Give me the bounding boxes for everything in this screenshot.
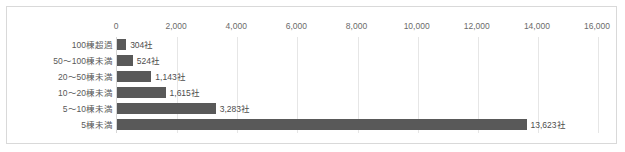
bar-row: 5〜10棟未満3,283社 bbox=[117, 101, 598, 117]
category-label: 5〜10棟未満 bbox=[63, 101, 113, 117]
category-label: 5棟未満 bbox=[81, 117, 113, 133]
bar-value-label: 304社 bbox=[130, 37, 153, 53]
x-tick-label: 4,000 bbox=[226, 19, 247, 33]
bar-value-label: 524社 bbox=[137, 53, 160, 69]
category-label: 100棟超過 bbox=[72, 37, 113, 53]
bar bbox=[117, 39, 126, 50]
bar-value-label: 1,615社 bbox=[170, 85, 200, 101]
gridline bbox=[598, 37, 599, 133]
category-label: 10〜20棟未満 bbox=[58, 85, 113, 101]
chart-figure: 02,0004,0006,0008,00010,00012,00014,0001… bbox=[6, 6, 617, 144]
x-tick-label: 8,000 bbox=[346, 19, 367, 33]
bar bbox=[117, 55, 133, 66]
x-tick-label: 6,000 bbox=[286, 19, 307, 33]
x-tick-label: 2,000 bbox=[165, 19, 186, 33]
bar-row: 50〜100棟未満524社 bbox=[117, 53, 598, 69]
bar bbox=[117, 119, 527, 130]
x-axis-tick-labels: 02,0004,0006,0008,00010,00012,00014,0001… bbox=[7, 19, 618, 33]
bar bbox=[117, 71, 151, 82]
bar-value-label: 1,143社 bbox=[155, 69, 185, 85]
x-tick-label: 16,000 bbox=[584, 19, 610, 33]
plot-area: 100棟超過304社50〜100棟未満524社20〜50棟未満1,143社10〜… bbox=[116, 37, 598, 133]
category-label: 50〜100棟未満 bbox=[53, 53, 113, 69]
x-tick-label: 10,000 bbox=[404, 19, 430, 33]
category-label: 20〜50棟未満 bbox=[58, 69, 113, 85]
x-tick-label: 0 bbox=[114, 19, 119, 33]
bar-row: 100棟超過304社 bbox=[117, 37, 598, 53]
bar bbox=[117, 103, 216, 114]
bar bbox=[117, 87, 166, 98]
x-tick-label: 12,000 bbox=[464, 19, 490, 33]
bar-row: 10〜20棟未満1,615社 bbox=[117, 85, 598, 101]
x-tick-label: 14,000 bbox=[524, 19, 550, 33]
bar-value-label: 3,283社 bbox=[220, 101, 250, 117]
bar-row: 20〜50棟未満1,143社 bbox=[117, 69, 598, 85]
bar-value-label: 13,623社 bbox=[531, 117, 566, 133]
bar-row: 5棟未満13,623社 bbox=[117, 117, 598, 133]
